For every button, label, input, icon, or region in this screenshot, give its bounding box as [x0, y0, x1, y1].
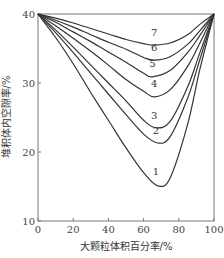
x-tick-label: 40 [102, 224, 115, 235]
y-tick-label: 40 [22, 9, 35, 20]
x-tick-label: 60 [137, 224, 150, 235]
x-tick-label: 100 [204, 224, 223, 235]
axis-ticks: 02040608010010203040 [22, 9, 223, 236]
curve-label-4: 4 [151, 78, 157, 89]
curve-label-2: 2 [153, 125, 159, 136]
y-tick-label: 10 [22, 216, 35, 227]
curve-label-6: 6 [151, 42, 157, 53]
y-tick-label: 30 [22, 78, 35, 89]
x-tick-label: 0 [35, 224, 41, 235]
curve-label-1: 1 [153, 166, 159, 177]
curve-label-3: 3 [151, 110, 157, 121]
curves [38, 14, 214, 187]
chart: 02040608010010203040 1234567 大颗粒体积百分率/% … [0, 0, 224, 258]
curve-7 [38, 14, 214, 45]
curve-label-7: 7 [151, 27, 157, 38]
y-axis-title: 堆积体内空隙率/% [0, 76, 12, 159]
y-tick-label: 20 [22, 147, 35, 158]
x-tick-label: 80 [172, 224, 185, 235]
curve-3 [38, 14, 214, 128]
x-tick-label: 20 [67, 224, 80, 235]
curve-label-5: 5 [149, 58, 155, 69]
x-axis-title: 大颗粒体积百分率/% [80, 240, 173, 252]
curve-labels: 1234567 [149, 27, 159, 177]
